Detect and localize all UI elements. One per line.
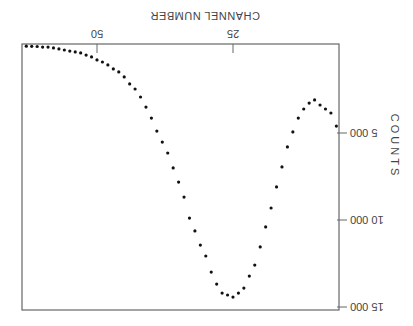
data-point [155,129,158,132]
data-point [101,60,104,63]
data-point [85,53,88,56]
data-point [79,51,82,54]
data-point [215,282,218,285]
data-point [280,165,283,168]
data-point [253,263,256,266]
data-point [291,130,294,133]
data-point [248,274,251,277]
data-point [52,46,55,49]
data-point [144,105,147,108]
data-point [128,82,131,85]
data-point [95,58,98,61]
data-point [308,101,311,104]
data-point [188,216,191,219]
data-point [210,270,213,273]
y-tick-label: 10 000 [350,214,384,226]
data-point [36,45,39,48]
data-point [139,95,142,98]
y-axis-label: COUNTS [389,114,401,178]
x-tick-label: 50 [91,28,103,40]
data-point [46,45,49,48]
data-point [237,291,240,294]
data-point [204,254,207,257]
data-point [166,151,169,154]
data-point [172,166,175,169]
data-point [150,116,153,119]
data-point [68,49,71,52]
data-point [112,67,115,70]
data-point [41,45,44,48]
y-tick-label: 5 000 [350,127,378,139]
data-point [264,225,267,228]
data-point [231,295,234,298]
data-point [74,50,77,53]
y-tick-label: 15 000 [350,301,384,313]
data-points [25,45,338,299]
data-point [329,111,332,114]
chart-rotated: 2550 5 00010 00015 000 CHANNEL NUMBER CO… [0,0,413,326]
x-tick-label: 25 [227,28,239,40]
data-point [297,116,300,119]
plot-frame [22,44,339,310]
data-point [324,107,327,110]
y-axis-ticks: 5 00010 00015 000 [337,127,384,313]
data-point [25,45,28,48]
data-point [199,243,202,246]
x-axis-label: CHANNEL NUMBER [150,10,260,22]
x-axis-ticks: 2550 [91,28,239,53]
data-point [117,70,120,73]
data-point [161,140,164,143]
data-point [302,107,305,110]
data-point [106,63,109,66]
data-point [313,98,316,101]
data-point [90,55,93,58]
data-point [133,87,136,90]
data-point [335,124,338,127]
data-point [275,185,278,188]
data-point [177,180,180,183]
data-point [57,47,60,50]
data-point [269,206,272,209]
data-point [226,293,229,296]
data-point [259,245,262,248]
data-point [193,229,196,232]
scatter-chart: 2550 5 00010 00015 000 CHANNEL NUMBER CO… [0,0,413,326]
data-point [286,145,289,148]
data-point [242,286,245,289]
data-point [123,75,126,78]
data-point [30,45,33,48]
data-point [221,291,224,294]
data-point [182,195,185,198]
data-point [63,48,66,51]
data-point [318,103,321,106]
